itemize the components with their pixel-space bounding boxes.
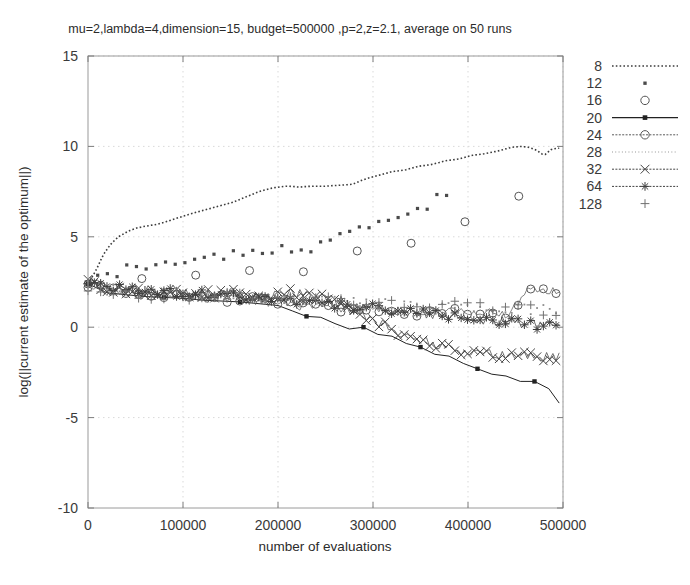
data-marker [138,275,146,283]
chart-legend[interactable]: 812162024283264128 [579,58,678,212]
legend-label-64[interactable]: 64 [586,178,602,194]
marker-dot [643,82,646,85]
data-marker [367,226,370,229]
data-marker [552,357,560,365]
data-marker [324,292,332,300]
marker-dot [416,207,419,210]
data-marker [241,254,244,257]
data-marker [356,305,364,313]
data-marker [203,256,206,259]
marker-circle [407,239,415,247]
data-marker [361,325,365,329]
data-marker [641,96,649,104]
data-marker [362,316,370,324]
data-marker [410,301,412,303]
x-tick-label: 200000 [255,517,302,533]
data-marker [486,309,488,311]
data-marker [394,307,402,315]
y-tick-label: -5 [66,410,79,426]
data-marker [527,316,535,324]
marker-dot [300,248,303,251]
marker-dot [145,267,148,270]
data-marker [387,219,390,222]
marker-dot [241,254,244,257]
marker-dot [445,194,448,197]
legend-label-32[interactable]: 32 [586,161,602,177]
marker-tiny-dot [384,298,386,300]
data-marker [359,302,361,304]
data-marker [318,299,326,307]
data-marker [425,342,433,350]
legend-label-24[interactable]: 24 [586,127,602,143]
data-marker [384,298,386,300]
data-marker [242,296,250,304]
marker-dot [435,193,438,196]
data-marker [353,297,355,299]
data-marker [300,248,303,251]
data-marker [498,310,500,312]
data-marker [406,212,409,215]
marker-square [361,325,365,329]
series-line [88,147,559,284]
marker-tiny-dot [536,307,538,309]
data-marker [515,192,523,200]
data-marker [153,290,161,298]
data-marker [147,285,155,293]
data-marker [222,258,225,261]
y-tick-label: 10 [62,138,78,154]
data-marker [290,250,293,253]
data-marker [641,165,650,174]
marker-dot [319,240,322,243]
data-marker [391,308,393,310]
data-marker [552,321,560,329]
data-marker [520,321,528,329]
marker-dot [96,274,99,277]
data-marker [144,286,146,288]
data-marker [511,312,513,314]
data-marker [193,258,196,261]
data-marker [232,249,235,252]
data-marker [530,313,532,315]
data-marker [115,280,123,288]
x-tick-label: 100000 [160,517,207,533]
marker-dot [115,275,118,278]
plot-container: 151050-5-1001000002000003000004000005000… [0,0,690,585]
marker-dot [397,216,400,219]
marker-dot [203,256,206,259]
legend-label-12[interactable]: 12 [586,75,602,91]
marker-dot [387,219,390,222]
data-marker [418,345,422,349]
data-marker [182,290,184,292]
marker-dot [154,263,157,266]
data-marker [286,284,294,292]
marker-tiny-dot [403,301,405,303]
data-marker [403,301,405,303]
data-marker [192,271,200,279]
data-marker [505,311,507,313]
data-marker [641,182,650,191]
legend-label-16[interactable]: 16 [586,92,602,108]
marker-tiny-dot [505,311,507,313]
data-marker [115,275,118,278]
marker-circle [641,96,649,104]
data-marker [542,304,544,306]
marker-tiny-dot [321,296,323,298]
gridlines [88,56,563,508]
marker-tiny-dot [112,284,114,286]
legend-label-8[interactable]: 8 [594,58,602,74]
marker-square [643,115,648,120]
y-tick-label: -10 [58,500,78,516]
legend-label-20[interactable]: 20 [586,110,602,126]
data-marker [549,308,551,310]
data-marker [454,307,456,309]
y-axis-title: log(||current estimate of the optimum||) [16,167,31,398]
marker-dot [290,250,293,253]
marker-tiny-dot [473,310,475,312]
data-marker [546,355,554,363]
data-marker [329,238,332,241]
legend-label-128[interactable]: 128 [579,196,603,212]
legend-label-28[interactable]: 28 [586,144,602,160]
marker-tiny-dot [353,297,355,299]
data-marker [212,253,215,256]
data-marker [438,339,446,347]
